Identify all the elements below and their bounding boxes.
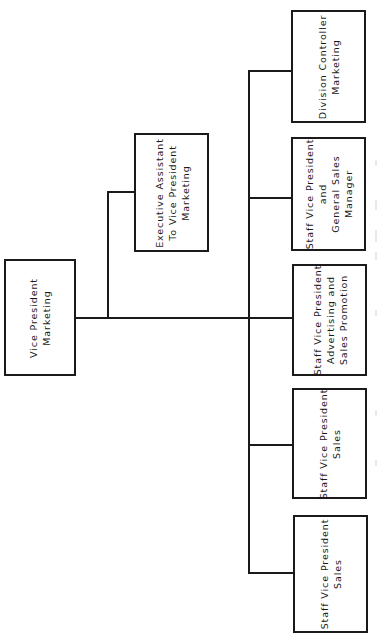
label-line: Sales Promotion	[336, 265, 349, 376]
label-line: General Sales	[329, 139, 342, 250]
node-label: Vice President Marketing	[27, 278, 53, 358]
label-line: Manager	[342, 139, 355, 250]
node-staff-vp-sales: Staff Vice President Sales	[293, 515, 368, 633]
label-line: Marketing	[40, 278, 53, 358]
node-division-controller-marketing: Division Controller Marketing	[291, 10, 366, 123]
node-label: Division Controller Marketing	[316, 14, 342, 119]
label-line: Staff Vice President	[318, 519, 331, 630]
node-label: Executive Assistant To Vice President Ma…	[152, 138, 191, 248]
node-staff-vp-general-sales-manager: Staff Vice President and General Sales M…	[291, 137, 366, 251]
node-label: Staff Vice President Advertising and Sal…	[310, 265, 349, 376]
label-line: Marketing	[329, 14, 342, 119]
label-line: Marketing	[178, 138, 191, 248]
node-staff-vp-sales: Staff Vice President Sales	[292, 388, 367, 499]
faint-caption-remnant	[371, 160, 381, 480]
node-label: Staff Vice President Sales	[317, 388, 343, 499]
label-line: Advertising and	[323, 265, 336, 376]
node-staff-vp-advertising-sales-promotion: Staff Vice President Advertising and Sal…	[292, 264, 367, 376]
label-line: Sales	[330, 388, 343, 499]
label-line: and	[316, 139, 329, 250]
node-label: Staff Vice President Sales	[318, 519, 344, 630]
label-line: Staff Vice President	[310, 265, 323, 376]
label-line: To Vice President	[165, 138, 178, 248]
label-line: Sales	[331, 519, 344, 630]
org-chart: Vice President Marketing Executive Assis…	[0, 0, 383, 637]
node-vice-president-marketing: Vice President Marketing	[4, 259, 76, 376]
label-line: Executive Assistant	[152, 138, 165, 248]
label-line: Vice President	[27, 278, 40, 358]
label-line: Division Controller	[316, 14, 329, 119]
label-line: Staff Vice President	[317, 388, 330, 499]
node-label: Staff Vice President and General Sales M…	[303, 139, 355, 250]
node-executive-assistant: Executive Assistant To Vice President Ma…	[134, 133, 209, 252]
label-line: Staff Vice President	[303, 139, 316, 250]
